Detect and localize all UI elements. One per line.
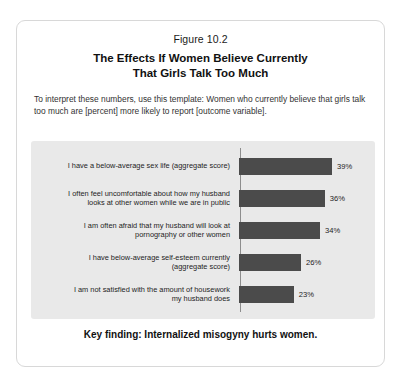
figure-card: Figure 10.2 The Effects If Women Believe…: [16, 20, 385, 367]
bar-category-label-line: (aggregate score): [31, 262, 230, 271]
bar-track: 39%: [239, 151, 375, 181]
bar-value-label: 26%: [306, 258, 321, 267]
bar-track: 23%: [239, 279, 375, 309]
figure-title-line-1: The Effects If Women Believe Currently: [41, 51, 360, 66]
bar: [239, 222, 320, 239]
bar-value-label: 39%: [337, 162, 352, 171]
chart-rows: I have a below-average sex life (aggrega…: [31, 141, 375, 319]
bar-track: 36%: [239, 183, 375, 213]
figure-number: Figure 10.2: [17, 33, 384, 45]
intro-text: To interpret these numbers, use this tem…: [34, 93, 367, 117]
bar-category-label-line: my husband does: [31, 294, 230, 303]
bar: [239, 158, 332, 175]
chart-row: I have a below-average sex life (aggrega…: [31, 151, 375, 181]
bar: [239, 286, 294, 303]
bar-value-label: 36%: [330, 194, 345, 203]
key-finding-text: Key finding: Internalized misogyny hurts…: [17, 329, 384, 340]
bar-category-label-line: looks at other women while we are in pub…: [31, 198, 230, 207]
bar-category-label-line: pornography or other women: [31, 230, 230, 239]
figure-title: The Effects If Women Believe Currently T…: [17, 51, 384, 80]
bar-value-label: 23%: [299, 290, 314, 299]
bar-value-label: 34%: [325, 226, 340, 235]
bar-category-label-line: I have below-average self-esteem current…: [31, 253, 230, 262]
bar: [239, 190, 325, 207]
chart-row: I often feel uncomfortable about how my …: [31, 183, 375, 213]
bar-category-label: I have below-average self-esteem current…: [31, 253, 239, 271]
bar-chart-panel: I have a below-average sex life (aggrega…: [31, 141, 375, 319]
bar-category-label-line: I am not satisfied with the amount of ho…: [31, 285, 230, 294]
bar-category-label: I often feel uncomfortable about how my …: [31, 189, 239, 207]
chart-row: I am often afraid that my husband will l…: [31, 215, 375, 245]
bar-category-label: I am not satisfied with the amount of ho…: [31, 285, 239, 303]
bar-category-label: I am often afraid that my husband will l…: [31, 221, 239, 239]
chart-row: I am not satisfied with the amount of ho…: [31, 279, 375, 309]
chart-row: I have below-average self-esteem current…: [31, 247, 375, 277]
bar-track: 34%: [239, 215, 375, 245]
bar: [239, 254, 301, 271]
figure-title-line-2: That Girls Talk Too Much: [41, 66, 360, 81]
bar-category-label: I have a below-average sex life (aggrega…: [31, 161, 239, 170]
bar-category-label-line: I often feel uncomfortable about how my …: [31, 189, 230, 198]
bar-category-label-line: I am often afraid that my husband will l…: [31, 221, 230, 230]
bar-category-label-line: I have a below-average sex life (aggrega…: [31, 161, 230, 170]
bar-track: 26%: [239, 247, 375, 277]
